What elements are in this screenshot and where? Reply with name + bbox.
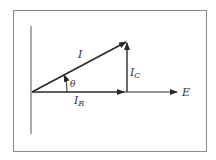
label-theta: θ [70, 79, 76, 89]
theta-angle-arc [64, 75, 67, 92]
label-capacitive-current: IC [129, 66, 140, 80]
diagram-frame [14, 11, 207, 152]
label-total-current: I [77, 48, 83, 61]
label-resistive-current: IR [73, 94, 84, 108]
label-voltage: E [181, 86, 190, 99]
phasor-diagram: I θ IC IR E [0, 0, 216, 160]
